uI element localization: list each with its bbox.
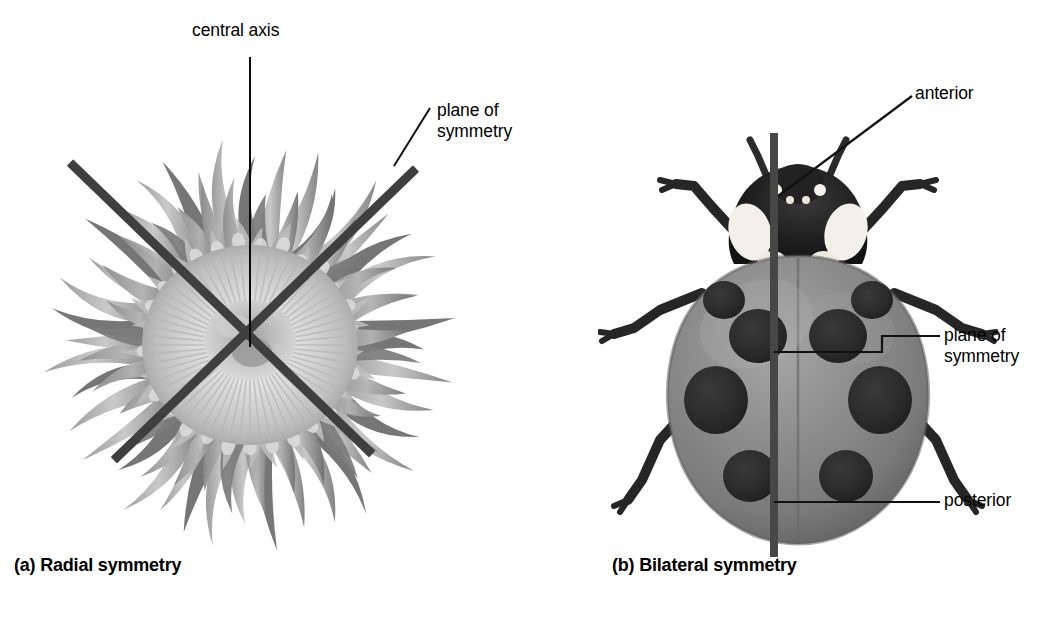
anterior-leader-line [770, 88, 930, 198]
sea-anemone-illustration [18, 140, 498, 550]
label-posterior: posterior [944, 490, 1011, 511]
label-plane-of-symmetry-a: plane of symmetry [437, 100, 512, 142]
caption-bilateral-symmetry: (b) Bilateral symmetry [612, 555, 797, 576]
posterior-leader-line [770, 492, 950, 512]
central-axis-leader-line [249, 57, 251, 347]
caption-radial-symmetry: (a) Radial symmetry [14, 555, 181, 576]
symmetry-figure: central axis plane of symmetry (a) Radia… [0, 0, 1049, 625]
label-central-axis: central axis [192, 20, 279, 41]
plane-of-symmetry-leader-b [770, 320, 950, 360]
label-anterior: anterior [915, 83, 974, 104]
label-plane-of-symmetry-b: plane of symmetry [944, 325, 1019, 367]
